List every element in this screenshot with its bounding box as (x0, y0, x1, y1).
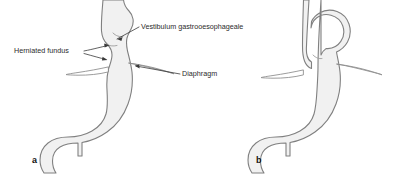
panel-label-b: b (256, 155, 262, 165)
label-diaphragm: Diaphragm (182, 69, 217, 78)
label-vestibulum-gastrooesophageale: Vestibulum gastrooesophageale (141, 22, 243, 31)
label-herniated-fundus: Herniated fundus (14, 46, 69, 55)
hiatal-hernia-figure: Vestibulum gastrooesophageale Herniated … (0, 0, 414, 182)
